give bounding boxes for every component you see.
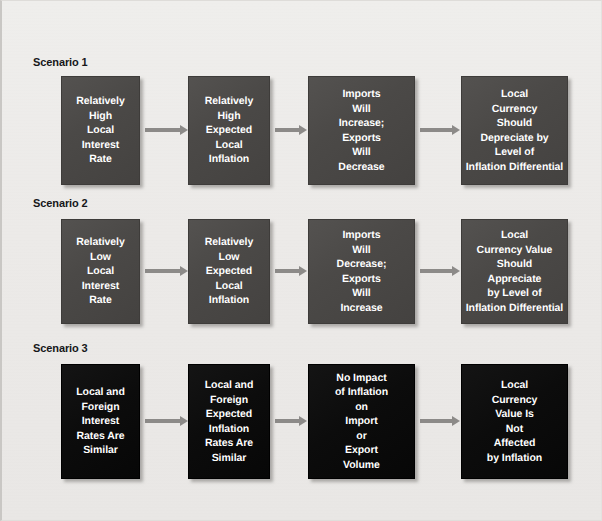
scenario-2-node-1[interactable]: Relatively Low Local Interest Rate xyxy=(61,219,140,324)
scenario-3-node-1[interactable]: Local and Foreign Interest Rates Are Sim… xyxy=(61,364,140,479)
scenario-2-node-2-text: Relatively Low Expected Local Inflation xyxy=(205,235,254,308)
scenario-3-node-3[interactable]: No Impact of Inflation on Import or Expo… xyxy=(308,364,415,479)
scenario-label-2: Scenario 2 xyxy=(33,197,88,209)
arrow-1-2 xyxy=(275,128,300,132)
scenario-1-node-1-text: Relatively High Local Interest Rate xyxy=(76,94,125,167)
scenario-3-node-2[interactable]: Local and Foreign Expected Inflation Rat… xyxy=(188,364,270,479)
diagram-canvas: Scenario 1 Relatively High Local Interes… xyxy=(0,0,602,521)
scenario-3-node-4-text: Local Currency Value Is Not Affected by … xyxy=(487,378,542,465)
scenario-3-node-2-text: Local and Foreign Expected Inflation Rat… xyxy=(205,378,254,465)
scenario-1-node-3[interactable]: Imports Will Increase; Exports Will Decr… xyxy=(308,76,415,185)
scenario-3-node-4[interactable]: Local Currency Value Is Not Affected by … xyxy=(461,364,568,479)
scenario-2-node-4-text: Local Currency Value Should Appreciate b… xyxy=(466,228,564,315)
arrow-2-1 xyxy=(145,269,181,273)
scenario-1-node-2[interactable]: Relatively High Expected Local Inflation xyxy=(188,76,270,185)
arrow-3-1 xyxy=(145,419,181,423)
scenario-2-node-2[interactable]: Relatively Low Expected Local Inflation xyxy=(188,219,270,324)
scenario-2-node-3[interactable]: Imports Will Decrease; Exports Will Incr… xyxy=(308,219,415,324)
scenario-1-node-1[interactable]: Relatively High Local Interest Rate xyxy=(61,76,140,185)
scenario-1-node-2-text: Relatively High Expected Local Inflation xyxy=(205,94,254,167)
scenario-label-3: Scenario 3 xyxy=(33,342,88,354)
scenario-3-node-1-text: Local and Foreign Interest Rates Are Sim… xyxy=(76,385,125,458)
scenario-1-node-4[interactable]: Local Currency Should Depreciate by Leve… xyxy=(461,76,568,185)
arrow-2-2 xyxy=(275,269,300,273)
scenario-1-node-4-text: Local Currency Should Depreciate by Leve… xyxy=(466,87,564,174)
scenario-label-1: Scenario 1 xyxy=(33,56,88,68)
arrow-2-3 xyxy=(420,269,453,273)
scenario-3-node-3-text: No Impact of Inflation on Import or Expo… xyxy=(335,371,388,473)
scenario-2-node-4[interactable]: Local Currency Value Should Appreciate b… xyxy=(461,219,568,324)
arrow-3-3 xyxy=(420,419,453,423)
arrow-3-2 xyxy=(275,419,300,423)
scenario-2-node-1-text: Relatively Low Local Interest Rate xyxy=(76,235,125,308)
scenario-1-node-3-text: Imports Will Increase; Exports Will Decr… xyxy=(338,87,384,174)
scenario-2-node-3-text: Imports Will Decrease; Exports Will Incr… xyxy=(337,228,387,315)
arrow-1-3 xyxy=(420,128,453,132)
arrow-1-1 xyxy=(145,128,181,132)
